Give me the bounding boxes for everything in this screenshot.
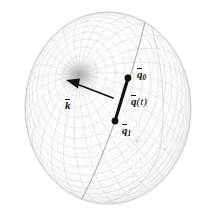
label-q0-base: q <box>137 69 143 80</box>
label-qt-base: q <box>131 96 137 107</box>
point-q1 <box>112 118 119 125</box>
label-q1-subscript: 1 <box>128 130 132 138</box>
label-q0-subscript: 0 <box>143 74 147 82</box>
label-k: k <box>65 100 71 111</box>
point-q0 <box>125 75 132 82</box>
label-q1: q1 <box>122 125 131 138</box>
axis-pole-shading <box>52 52 106 98</box>
label-qt: q(t) <box>131 96 147 107</box>
label-k-base: k <box>65 100 71 111</box>
quaternion-slerp-figure: q0 q(t) q1 k <box>0 0 215 218</box>
label-qt-argument: (t) <box>137 95 147 107</box>
label-q1-base: q <box>122 125 128 136</box>
figure-canvas <box>0 0 215 218</box>
label-q0: q0 <box>137 69 146 82</box>
